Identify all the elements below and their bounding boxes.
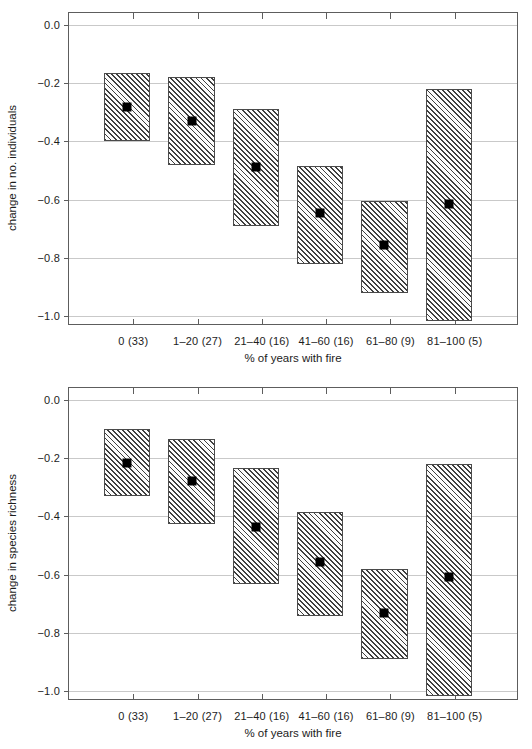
x-axis-tick-mark-top (262, 13, 263, 19)
x-axis-tick-mark (326, 694, 327, 700)
y-axis-tick-mark (64, 691, 69, 692)
y-axis-tick-mark (64, 141, 69, 142)
y-axis-tick-label: −0.2 (37, 452, 60, 464)
y-axis-tick-label: −0.2 (37, 77, 60, 89)
y-axis-tick-mark (64, 516, 69, 517)
chart-panel-change-in-species-richness: change in species richness 0.0−0.2−0.4−0… (0, 375, 532, 749)
plot-area-bottom: 0.0−0.2−0.4−0.6−0.8−1.00 (33)1–20 (27)21… (68, 387, 518, 700)
x-axis-tick-label: 61–80 (9) (366, 710, 415, 722)
x-axis-tick-label: 41–60 (16) (299, 335, 354, 347)
y-axis-tick-mark (64, 258, 69, 259)
x-axis-tick-mark (390, 319, 391, 325)
y-axis-tick-label: −0.4 (37, 135, 60, 147)
plot-area-top: 0.0−0.2−0.4−0.6−0.8−1.00 (33)1–20 (27)21… (68, 12, 518, 325)
x-axis-tick-mark (198, 319, 199, 325)
y-axis-tick-label: −0.8 (37, 252, 60, 264)
x-axis-tick-mark-top (133, 388, 134, 394)
mean-marker (316, 208, 325, 217)
x-axis-title: % of years with fire (68, 352, 518, 364)
y-axis-tick-label: 0.0 (44, 19, 60, 31)
x-axis-tick-label: 81–100 (5) (427, 710, 482, 722)
x-axis-tick-label: 41–60 (16) (299, 710, 354, 722)
y-axis-tick-label: −0.8 (37, 627, 60, 639)
x-axis-tick-label: 81–100 (5) (427, 335, 482, 347)
x-axis-tick-mark (262, 694, 263, 700)
x-axis-tick-label: 0 (33) (118, 335, 148, 347)
y-axis-tick-mark (64, 458, 69, 459)
x-axis-tick-mark-top (326, 388, 327, 394)
x-axis-tick-mark-top (198, 13, 199, 19)
x-axis-tick-label: 21–40 (16) (234, 335, 289, 347)
y-axis-tick-label: −0.6 (37, 569, 60, 581)
y-axis-tick-label: 0.0 (44, 394, 60, 406)
mean-marker (444, 200, 453, 209)
x-axis-tick-label: 0 (33) (118, 710, 148, 722)
y-axis-tick-label: −0.4 (37, 510, 60, 522)
x-axis-tick-mark-top (133, 13, 134, 19)
mean-marker (123, 103, 132, 112)
x-axis-tick-mark-top (455, 13, 456, 19)
y-axis-tick-label: −0.6 (37, 194, 60, 206)
y-axis-tick-mark (64, 316, 69, 317)
x-axis-tick-label: 1–20 (27) (173, 335, 222, 347)
mean-marker (251, 162, 260, 171)
y-axis-tick-mark (64, 83, 69, 84)
y-axis-title: change in no. individuals (6, 105, 18, 231)
x-axis-tick-mark-top (455, 388, 456, 394)
y-axis-tick-mark (64, 200, 69, 201)
figure-two-panel-fire-effects: change in no. individuals 0.0−0.2−0.4−0.… (0, 0, 532, 749)
x-axis-tick-mark (198, 694, 199, 700)
mean-marker (187, 116, 196, 125)
x-axis-tick-mark (390, 694, 391, 700)
mean-marker (187, 476, 196, 485)
y-axis-tick-label: −1.0 (37, 685, 60, 697)
x-axis-tick-mark (262, 319, 263, 325)
gridline (69, 25, 517, 26)
mean-marker (444, 573, 453, 582)
x-axis-tick-mark-top (198, 388, 199, 394)
y-axis-tick-mark (64, 633, 69, 634)
x-axis-tick-mark-top (326, 13, 327, 19)
x-axis-tick-label: 21–40 (16) (234, 710, 289, 722)
y-axis-title: change in species richness (6, 474, 18, 612)
mean-marker (123, 459, 132, 468)
y-axis-tick-mark (64, 25, 69, 26)
x-axis-tick-label: 1–20 (27) (173, 710, 222, 722)
mean-marker (316, 558, 325, 567)
x-axis-tick-label: 61–80 (9) (366, 335, 415, 347)
gridline (69, 400, 517, 401)
mean-marker (251, 522, 260, 531)
mean-marker (380, 240, 389, 249)
y-axis-tick-mark (64, 575, 69, 576)
chart-panel-change-in-no-individuals: change in no. individuals 0.0−0.2−0.4−0.… (0, 0, 532, 374)
x-axis-title: % of years with fire (68, 727, 518, 739)
x-axis-tick-mark (326, 319, 327, 325)
mean-marker (380, 608, 389, 617)
y-axis-tick-mark (64, 400, 69, 401)
y-axis-tick-label: −1.0 (37, 310, 60, 322)
x-axis-tick-mark-top (390, 13, 391, 19)
x-axis-tick-mark (133, 319, 134, 325)
x-axis-tick-mark-top (390, 388, 391, 394)
x-axis-tick-mark (133, 694, 134, 700)
x-axis-tick-mark-top (262, 388, 263, 394)
